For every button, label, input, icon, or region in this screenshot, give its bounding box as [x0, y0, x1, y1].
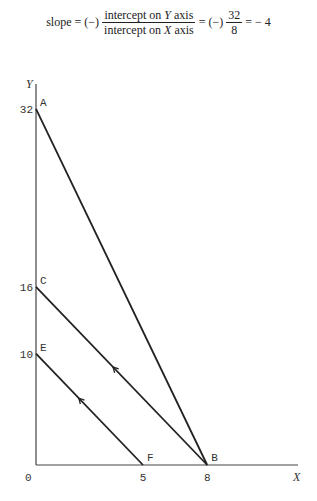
origin-label: 0: [25, 472, 32, 484]
intercept-diagram: YX032161058ACEFB: [0, 0, 317, 501]
y-tick-label: 32: [20, 104, 33, 116]
line-CB: [36, 287, 207, 465]
x-tick-label: 5: [140, 472, 147, 484]
point-label-C: C: [40, 275, 47, 287]
point-label-F: F: [147, 452, 154, 464]
point-label-B: B: [211, 452, 218, 464]
y-tick-label: 16: [20, 282, 33, 294]
point-label-A: A: [40, 97, 47, 109]
point-label-E: E: [40, 342, 47, 354]
y-tick-label: 10: [20, 349, 33, 361]
y-axis-label: Y: [26, 77, 34, 91]
line-EF: [36, 354, 143, 465]
x-axis-label: X: [292, 470, 301, 484]
line-AB: [36, 109, 207, 465]
x-tick-label: 8: [204, 472, 211, 484]
